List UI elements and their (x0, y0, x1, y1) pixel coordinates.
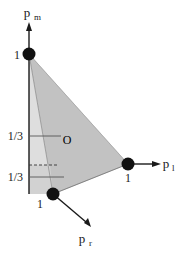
axis-arrow-pl (152, 161, 161, 167)
axis-label-pl-subscript: l (172, 163, 175, 173)
vertex-dot-pl (122, 158, 135, 171)
vertex-dot-pm (23, 48, 36, 61)
tick-label-pm-third: 1/3 (8, 129, 23, 143)
axis-label-pr-subscript: r (89, 238, 92, 248)
axis-label-pr-base: p (79, 231, 86, 246)
vertex-dot-pr (47, 188, 60, 201)
simplex-diagram: O p m p l p r 1 1 1 1/3 1/3 (0, 0, 180, 254)
region-label-o: O (63, 133, 72, 147)
axis-arrow-pm (26, 22, 32, 31)
tick-label-pl-one: 1 (125, 171, 131, 185)
tick-label-pr-one: 1 (37, 197, 43, 211)
axis-arrow-pr (84, 218, 91, 227)
tick-label-pr-third: 1/3 (8, 170, 23, 184)
axis-label-pm-subscript: m (34, 12, 41, 22)
axis-label-pl-base: p (163, 156, 170, 171)
axis-label-pm-base: p (24, 5, 31, 20)
tick-label-pm-one: 1 (14, 48, 20, 62)
